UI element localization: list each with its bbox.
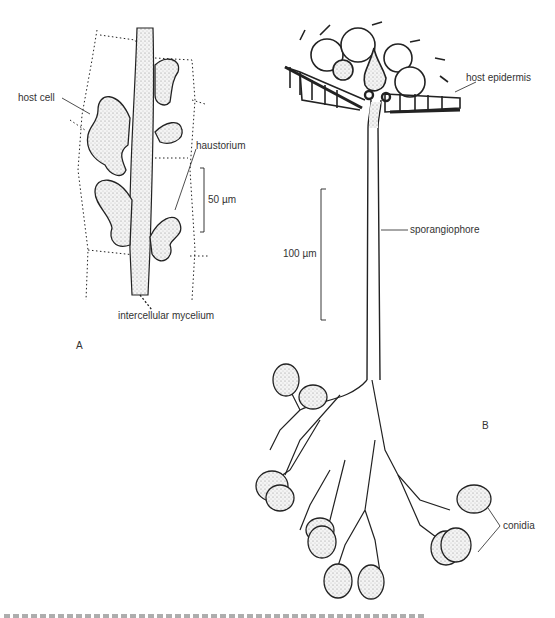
label-intercellular-mycelium: intercellular mycelium — [118, 310, 214, 322]
haustorium-lobe — [155, 123, 182, 144]
figure-caption-clipped — [0, 612, 555, 618]
figure-drawing — [0, 0, 555, 618]
scale-bar-100um — [321, 189, 326, 320]
label-scale-100um: 100 µm — [283, 248, 317, 260]
label-host-cell: host cell — [18, 92, 55, 104]
haustorium-lobe — [87, 97, 130, 176]
haustorium-lobe — [95, 180, 132, 246]
conidia — [256, 364, 491, 599]
haustorium-lobe — [150, 217, 181, 260]
label-host-epidermis: host epidermis — [466, 72, 531, 84]
scale-bar-50um — [200, 168, 204, 232]
label-scale-50um: 50 µm — [208, 194, 236, 206]
panel-b-drawing — [256, 22, 500, 599]
sporangiophore-stalk — [367, 100, 381, 380]
label-conidia: conidia — [503, 520, 535, 532]
label-sporangiophore: sporangiophore — [410, 224, 480, 236]
haustorium-lobe — [155, 59, 179, 105]
host-epidermis — [285, 22, 460, 112]
panel-label-a: A — [76, 340, 83, 351]
panel-a-drawing — [62, 28, 210, 310]
label-haustorium: haustorium — [196, 140, 245, 152]
intercellular-mycelium — [130, 28, 154, 295]
sporangiophore-branches — [260, 380, 450, 575]
panel-label-b: B — [482, 420, 489, 431]
